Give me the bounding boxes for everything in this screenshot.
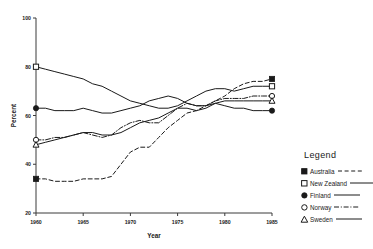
y-tick-label: 60 (25, 113, 31, 119)
y-tick-label: 20 (25, 210, 31, 216)
legend-label-australia: Australia (310, 168, 335, 175)
legend-item-norway[interactable]: Norway (299, 201, 372, 213)
legend-item-sweden[interactable]: Sweden (299, 213, 372, 225)
legend-marker-filled-square-icon (299, 167, 310, 176)
legend-marker-filled-circle-icon (299, 191, 310, 200)
legend-marker-open-triangle-icon (299, 215, 310, 224)
end-marker-australia (269, 76, 274, 81)
x-tick-label: 1970 (125, 219, 137, 225)
y-tick-label: 40 (25, 161, 31, 167)
legend-item-new-zealand[interactable]: New Zealand (299, 177, 372, 189)
y-tick-label: 100 (22, 15, 31, 21)
x-axis-title: Year (147, 232, 161, 239)
x-tick-label: 1980 (219, 219, 231, 225)
x-tick-label: 1960 (30, 219, 42, 225)
legend-label-finland: Finland (310, 192, 331, 199)
series-line-australia (36, 79, 272, 181)
x-tick-label: 1985 (266, 219, 278, 225)
chart-axis-labels: 20406080100196019651970197519801985YearP… (10, 15, 278, 239)
legend-items: AustraliaNew ZealandFinlandNorwaySweden (296, 165, 372, 225)
start-marker-australia (33, 176, 38, 181)
legend-label-sweden: Sweden (310, 216, 333, 223)
chart-axes (33, 18, 272, 216)
legend-line-sample-norway (334, 204, 372, 210)
legend-line-sample-australia (338, 168, 373, 174)
end-marker-finland (269, 108, 274, 113)
legend: Legend AustraliaNew ZealandFinlandNorway… (296, 150, 372, 232)
end-marker-new-zealand (269, 84, 274, 89)
chart-series (36, 67, 272, 182)
chart-root: 20406080100196019651970197519801985YearP… (0, 0, 373, 249)
y-tick-label: 80 (25, 64, 31, 70)
start-marker-finland (33, 106, 38, 111)
x-tick-label: 1975 (172, 219, 184, 225)
series-line-norway (36, 96, 272, 140)
legend-label-norway: Norway (310, 204, 331, 211)
legend-line-sample-finland (334, 192, 372, 198)
chart-endpoint-markers (33, 64, 275, 181)
legend-item-australia[interactable]: Australia (299, 165, 372, 177)
legend-line-sample-sweden (336, 216, 372, 222)
legend-label-new-zealand: New Zealand (310, 180, 347, 187)
x-tick-label: 1965 (77, 219, 89, 225)
legend-line-sample-new-zealand (350, 180, 372, 186)
y-axis-title: Percent (10, 103, 17, 127)
legend-marker-open-square-icon (299, 179, 310, 188)
start-marker-new-zealand (33, 64, 38, 69)
legend-title: Legend (304, 150, 372, 160)
legend-item-finland[interactable]: Finland (299, 189, 372, 201)
legend-marker-open-circle-icon (299, 203, 310, 212)
